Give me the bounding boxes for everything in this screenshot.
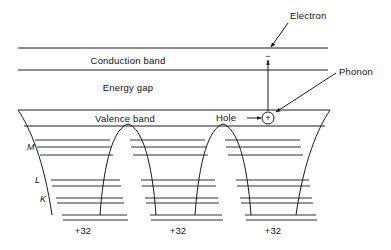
shell-label-k: K <box>40 195 46 204</box>
well-3-energy-levels <box>225 140 317 220</box>
shell-label-m: M <box>27 143 35 152</box>
phonon-leader-arrow <box>276 73 336 112</box>
conduction-band-label: Conduction band <box>91 56 166 66</box>
phonon-label: Phonon <box>339 67 373 77</box>
hole-label: Hole <box>216 113 236 123</box>
electron-charge-sign: − <box>265 51 270 61</box>
diagram-canvas <box>0 0 391 250</box>
nucleus-label-2: +32 <box>170 226 187 236</box>
electron-label: Electron <box>290 11 326 21</box>
potential-barrier-1 <box>100 124 156 215</box>
hole-charge-sign: + <box>265 113 270 123</box>
energy-gap-label: Energy gap <box>103 83 154 93</box>
valence-band-label: Valence band <box>95 114 155 124</box>
potential-barrier-2 <box>195 124 251 215</box>
nucleus-label-3: +32 <box>265 226 282 236</box>
energy-band-diagram: Conduction band Energy gap Valence band … <box>0 0 391 250</box>
shell-label-l: L <box>35 176 40 185</box>
nucleus-label-1: +32 <box>75 226 92 236</box>
well-1-energy-levels <box>35 140 128 220</box>
well-2-energy-levels <box>130 140 223 220</box>
electron-leader-arrow <box>271 23 288 47</box>
